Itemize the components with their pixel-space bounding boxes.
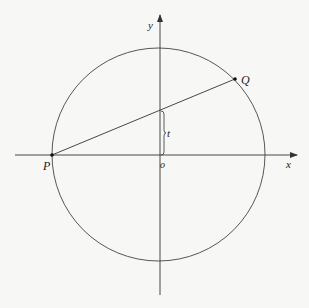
segment-t-label: t <box>167 127 171 139</box>
chord-pq <box>52 79 235 155</box>
point-p-label: P <box>42 159 51 173</box>
x-axis-label: x <box>285 158 291 170</box>
brace-t <box>161 111 166 155</box>
point-q-label: Q <box>241 73 250 87</box>
point-p-dot <box>50 153 54 157</box>
diagram-canvas: y x o P Q t <box>0 0 309 308</box>
origin-label: o <box>160 159 165 170</box>
y-axis-label: y <box>147 19 153 31</box>
point-q-dot <box>233 77 237 81</box>
